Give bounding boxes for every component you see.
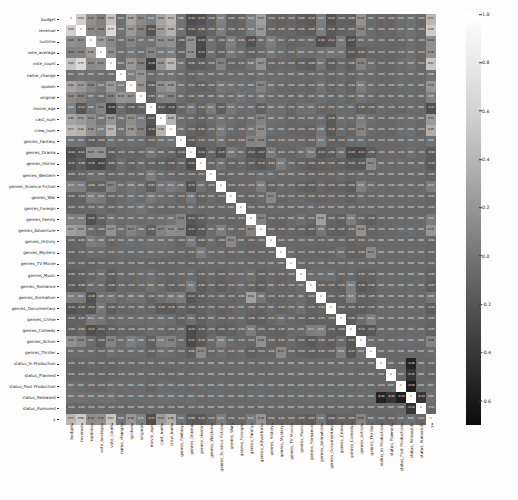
y-tick-revenue: revenue (39, 25, 59, 36)
heatmap-cell-value: -0.02 (298, 251, 305, 254)
heatmap-cell-value: 0.00 (388, 207, 394, 210)
heatmap-cell-value: 0.00 (358, 174, 364, 177)
heatmap-cell: 0.00 (116, 170, 126, 181)
heatmap-cell: 0.04 (316, 92, 326, 103)
heatmap-cell: 0.08 (256, 92, 266, 103)
heatmap-cell-value: 0.04 (318, 96, 324, 99)
heatmap-cell-value: -0.03 (108, 174, 115, 177)
heatmap-cell-value: 0.15 (348, 296, 354, 299)
heatmap-cell: 0.01 (406, 70, 416, 81)
heatmap-cell-value: -0.20 (348, 152, 355, 155)
heatmap-cell: 0.00 (236, 314, 246, 325)
heatmap-cell: -0.02 (396, 103, 406, 114)
heatmap-cell: -0.01 (196, 203, 206, 214)
heatmap-cell: 0.00 (136, 258, 146, 269)
heatmap-cell-value: -0.46 (378, 396, 385, 399)
heatmap-cell: 0.25 (86, 147, 96, 158)
heatmap-cell-value: 0.04 (188, 318, 194, 321)
heatmap-cell-value: -0.02 (388, 63, 395, 66)
heatmap-cell-value: 0.02 (338, 107, 344, 110)
heatmap-cell: 0.02 (406, 103, 416, 114)
heatmap-cell-value: 0.28 (68, 340, 74, 343)
heatmap-cell-value: 0.06 (88, 107, 94, 110)
heatmap-cell-value: 0.03 (228, 118, 234, 121)
heatmap-cell-value: -0.10 (198, 340, 205, 343)
heatmap-cell: -0.04 (316, 336, 326, 347)
heatmap-cell: -0.04 (296, 225, 306, 236)
heatmap-cell-value: -0.06 (338, 285, 345, 288)
heatmap-cell: -0.05 (316, 314, 326, 325)
heatmap-cell-value: 1 (150, 107, 152, 110)
heatmap-cell: 0.02 (196, 70, 206, 81)
heatmap-cell: -0.01 (286, 336, 296, 347)
heatmap-cell-value: 0.01 (138, 274, 144, 277)
heatmap-cell: -0.05 (196, 114, 206, 125)
heatmap-cell-value: 1 (380, 363, 382, 366)
y-tick-cast-num: cast_num (36, 114, 59, 125)
heatmap-cell-value: -0.01 (218, 207, 225, 210)
heatmap-cell-value: -0.01 (218, 374, 225, 377)
heatmap-cell: -0.01 (86, 381, 96, 392)
heatmap-cell: 0.00 (416, 336, 426, 347)
heatmap-cell-value: -0.01 (388, 74, 395, 77)
heatmap-cell-value: 0.03 (158, 351, 164, 354)
heatmap-cell: -0.03 (286, 14, 296, 25)
heatmap-cell-value: 0.02 (308, 40, 314, 43)
heatmap-cell: -0.05 (216, 303, 226, 314)
heatmap-cell: 0.01 (116, 236, 126, 247)
heatmap-cell-value: 0.13 (428, 185, 434, 188)
heatmap-cell: 0.25 (186, 36, 196, 47)
heatmap-cell: 0.22 (226, 236, 236, 247)
heatmap-cell-value: -0.02 (128, 152, 135, 155)
heatmap-cell-value: 0.62 (428, 63, 434, 66)
y-tick-genres-comedy: genres_Comedy (23, 325, 59, 336)
heatmap-cell: 0.00 (366, 403, 376, 414)
heatmap-cell: 0.32 (126, 58, 136, 69)
heatmap-cell: -0.02 (116, 303, 126, 314)
heatmap-cell-value: 0.22 (138, 18, 144, 21)
heatmap-cell-value: 0.01 (118, 318, 124, 321)
heatmap-cell: 0.04 (246, 269, 256, 280)
heatmap-cell-value: 0.24 (158, 40, 164, 43)
heatmap-cell: 0.05 (426, 136, 436, 147)
heatmap-cell-value: 0.03 (158, 396, 164, 399)
heatmap-cell-value: -0.08 (188, 63, 195, 66)
heatmap-cell-value: 0.00 (208, 340, 214, 343)
heatmap-cell: -0.13 (186, 292, 196, 303)
heatmap-cell-value: -0.01 (138, 285, 145, 288)
heatmap-cell-value: -0.21 (358, 152, 365, 155)
heatmap-cell-value: 0.14 (68, 218, 74, 221)
heatmap-cell: -0.07 (216, 281, 226, 292)
heatmap-cell: -0.10 (176, 147, 186, 158)
heatmap-cell-value: 0.00 (418, 163, 424, 166)
heatmap-cell: 0.03 (246, 81, 256, 92)
heatmap-cell: 0.00 (406, 236, 416, 247)
tick-mark-icon (57, 19, 59, 20)
heatmap-cell: 0.21 (86, 58, 96, 69)
heatmap-cell: -0.17 (86, 325, 96, 336)
heatmap-cell-value: -0.04 (298, 163, 305, 166)
heatmap-cell-value: -0.03 (128, 285, 135, 288)
heatmap-cell-value: 0.13 (128, 340, 134, 343)
heatmap-cell-value: 0.49 (168, 118, 174, 121)
heatmap-cell-value: 0.01 (308, 396, 314, 399)
heatmap-cell-value: 0.75 (108, 29, 114, 32)
heatmap-cell: 0.32 (106, 81, 116, 92)
heatmap-cell-value: 0.00 (388, 407, 394, 410)
heatmap-cell-value: 0.04 (88, 396, 94, 399)
heatmap-cell-value: -0.02 (388, 40, 395, 43)
heatmap-cell-value: 0.04 (268, 118, 274, 121)
heatmap-cell-value: -0.02 (388, 29, 395, 32)
heatmap-cell: -0.02 (376, 14, 386, 25)
heatmap-cell: 0.00 (116, 258, 126, 269)
heatmap-cell-value: 0.00 (208, 363, 214, 366)
heatmap-cell-value: -0.10 (198, 229, 205, 232)
heatmap-cell: 1 (216, 181, 226, 192)
heatmap-cell-value: -0.02 (328, 107, 335, 110)
heatmap-cell: -0.08 (166, 158, 176, 169)
heatmap-cell-value: -0.03 (178, 107, 185, 110)
heatmap-cell-value: -0.03 (278, 29, 285, 32)
heatmap-cell: -0.02 (286, 114, 296, 125)
heatmap-cell-value: -0.03 (278, 218, 285, 221)
heatmap-cell: -0.04 (266, 181, 276, 192)
